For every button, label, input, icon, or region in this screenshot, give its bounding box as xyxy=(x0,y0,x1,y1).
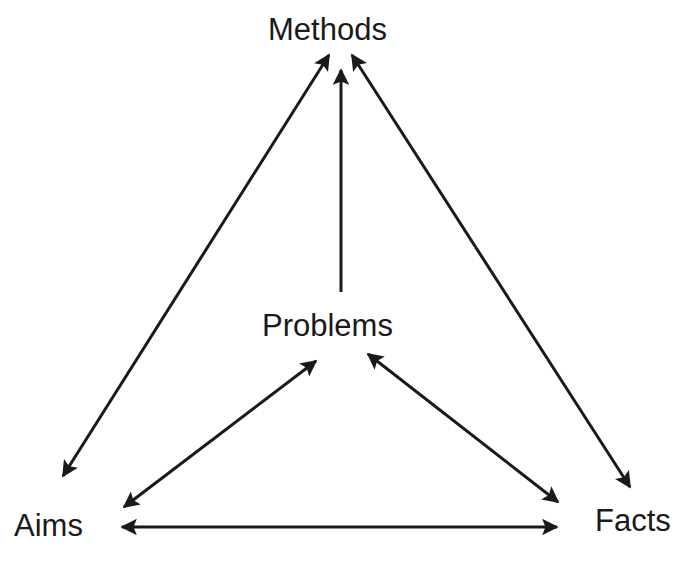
node-problems: Problems xyxy=(262,310,393,341)
arrow-aims-methods xyxy=(63,55,329,476)
arrows-layer xyxy=(0,0,693,567)
arrow-facts-methods xyxy=(352,55,630,487)
arrow-aims-problems xyxy=(124,361,316,507)
arrow-problems-facts xyxy=(368,354,558,502)
node-aims: Aims xyxy=(14,510,83,541)
node-facts: Facts xyxy=(595,505,671,536)
concept-diagram: Methods Problems Aims Facts xyxy=(0,0,693,567)
node-methods: Methods xyxy=(268,14,387,45)
